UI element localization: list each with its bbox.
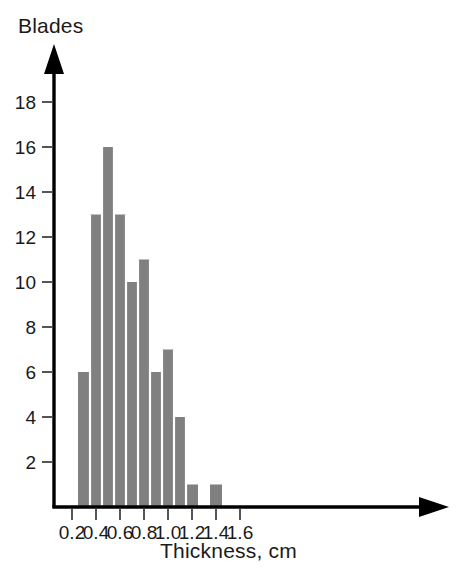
histogram-figure: Blades 18161412108642 0.20.40.60.81.01.2…	[0, 0, 457, 573]
y-axis-tick-label: 16	[2, 138, 36, 157]
y-axis-tick-label: 14	[2, 183, 36, 202]
x-axis-arrowhead	[419, 497, 449, 517]
histogram-bar	[78, 372, 90, 507]
bars-group	[78, 147, 222, 507]
histogram-bar	[186, 485, 198, 508]
histogram-bar	[162, 350, 174, 508]
y-axis-tick-label: 12	[2, 228, 36, 247]
histogram-bar	[90, 215, 102, 508]
y-axis-tick-label: 8	[2, 318, 36, 337]
y-axis-tick-label: 4	[2, 408, 36, 427]
histogram-bar	[150, 372, 162, 507]
histogram-bar	[102, 147, 114, 507]
histogram-bar	[114, 215, 126, 508]
y-axis-tick-label: 6	[2, 363, 36, 382]
y-axis-tick-label: 18	[2, 93, 36, 112]
y-axis-tick-label: 10	[2, 273, 36, 292]
y-axis-tick-label: 2	[2, 453, 36, 472]
x-axis-title: Thickness, cm	[0, 538, 457, 564]
histogram-bar	[210, 485, 222, 508]
plot-area	[0, 0, 457, 573]
histogram-bar	[174, 417, 186, 507]
histogram-bar	[126, 282, 138, 507]
histogram-bar	[138, 260, 150, 508]
y-axis-arrowhead	[44, 44, 64, 74]
